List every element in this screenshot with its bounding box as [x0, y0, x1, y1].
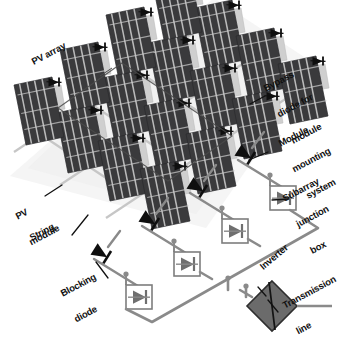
- subarray-junction-box[interactable]: [174, 252, 200, 276]
- label-line: Blocking: [59, 272, 98, 299]
- subarray-junction-box[interactable]: [222, 219, 248, 243]
- label-line: Bypass: [262, 67, 301, 94]
- label-line: diode: [73, 298, 112, 325]
- label-line: PV: [14, 198, 47, 222]
- label-line: box: [308, 228, 341, 255]
- label-line: junction: [295, 202, 335, 229]
- label-line: Transmission: [281, 274, 338, 310]
- label-line: Module: [277, 121, 318, 149]
- pv-module[interactable]: [106, 7, 157, 75]
- label-line: Subarray: [281, 177, 321, 204]
- pv-module[interactable]: [14, 77, 65, 145]
- label-line: line: [295, 300, 341, 336]
- subarray-junction-box[interactable]: [126, 285, 152, 309]
